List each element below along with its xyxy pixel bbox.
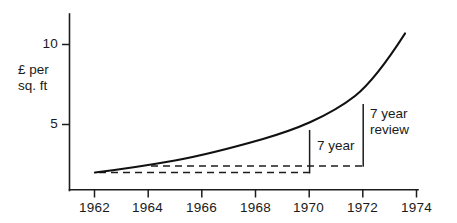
y-axis-title: £ per sq. ft bbox=[18, 62, 49, 94]
rent-growth-curve bbox=[95, 34, 405, 173]
x-tick-label-1966: 1966 bbox=[174, 200, 229, 215]
rent-growth-chart: £ per sq. ft 10 5 1962 1964 1966 1968 19… bbox=[0, 0, 457, 223]
x-tick-label-1972: 1972 bbox=[335, 200, 390, 215]
x-tick-label-1974: 1974 bbox=[389, 200, 444, 215]
y-tick-label-5: 5 bbox=[24, 116, 58, 131]
seven-year-annotation-label: 7 year bbox=[317, 138, 355, 154]
x-tick-label-1968: 1968 bbox=[228, 200, 283, 215]
y-tick-label-10: 10 bbox=[24, 36, 58, 51]
x-tick-label-1970: 1970 bbox=[281, 200, 336, 215]
x-tick-label-1962: 1962 bbox=[67, 200, 122, 215]
seven-year-review-annotation-label: 7 year review bbox=[370, 106, 409, 138]
x-tick-label-1964: 1964 bbox=[120, 200, 175, 215]
